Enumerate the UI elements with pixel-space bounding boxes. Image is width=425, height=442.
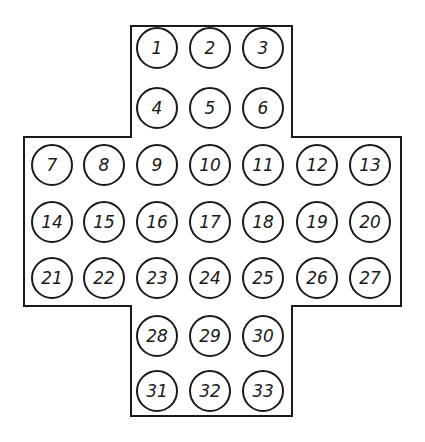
hole-17: 17 (190, 202, 230, 242)
hole-7: 7 (32, 145, 72, 185)
hole-14: 14 (32, 202, 72, 242)
hole-23: 23 (137, 258, 177, 298)
hole-number: 10 (199, 155, 221, 175)
hole-number: 16 (146, 212, 168, 232)
hole-6: 6 (243, 88, 283, 128)
peg-solitaire-board: 1234567891011121314151617181920212223242… (0, 0, 425, 442)
hole-3: 3 (243, 28, 283, 68)
hole-21: 21 (32, 258, 72, 298)
hole-5: 5 (190, 88, 230, 128)
hole-number: 4 (152, 98, 163, 118)
hole-26: 26 (297, 258, 337, 298)
hole-number: 15 (93, 212, 115, 232)
hole-16: 16 (137, 202, 177, 242)
hole-number: 17 (199, 212, 221, 232)
hole-number: 8 (99, 155, 110, 175)
hole-number: 7 (47, 155, 58, 175)
hole-number: 12 (306, 155, 328, 175)
hole-number: 25 (252, 268, 274, 288)
hole-number: 29 (199, 326, 221, 346)
hole-4: 4 (137, 88, 177, 128)
hole-25: 25 (243, 258, 283, 298)
hole-number: 32 (199, 381, 221, 401)
hole-27: 27 (350, 258, 390, 298)
hole-number: 27 (359, 268, 381, 288)
hole-31: 31 (137, 371, 177, 411)
hole-11: 11 (243, 145, 283, 185)
hole-number: 19 (306, 212, 328, 232)
hole-28: 28 (137, 316, 177, 356)
hole-8: 8 (84, 145, 124, 185)
hole-number: 3 (258, 38, 269, 58)
hole-number: 28 (146, 326, 168, 346)
hole-19: 19 (297, 202, 337, 242)
hole-20: 20 (350, 202, 390, 242)
hole-number: 2 (205, 38, 216, 58)
hole-number: 24 (199, 268, 221, 288)
hole-number: 14 (41, 212, 63, 232)
hole-number: 31 (146, 381, 168, 401)
hole-24: 24 (190, 258, 230, 298)
hole-number: 6 (258, 98, 269, 118)
hole-number: 5 (205, 98, 216, 118)
hole-10: 10 (190, 145, 230, 185)
hole-number: 11 (252, 155, 274, 175)
hole-13: 13 (350, 145, 390, 185)
hole-number: 23 (146, 268, 168, 288)
hole-number: 1 (152, 38, 163, 58)
hole-number: 18 (252, 212, 274, 232)
hole-number: 22 (93, 268, 115, 288)
hole-number: 9 (152, 155, 163, 175)
hole-15: 15 (84, 202, 124, 242)
hole-number: 30 (252, 326, 274, 346)
hole-number: 20 (359, 212, 381, 232)
hole-number: 21 (41, 268, 63, 288)
hole-33: 33 (243, 371, 283, 411)
hole-29: 29 (190, 316, 230, 356)
hole-2: 2 (190, 28, 230, 68)
hole-32: 32 (190, 371, 230, 411)
hole-22: 22 (84, 258, 124, 298)
hole-30: 30 (243, 316, 283, 356)
hole-number: 26 (306, 268, 328, 288)
hole-9: 9 (137, 145, 177, 185)
hole-18: 18 (243, 202, 283, 242)
hole-number: 33 (252, 381, 274, 401)
hole-1: 1 (137, 28, 177, 68)
hole-12: 12 (297, 145, 337, 185)
hole-number: 13 (359, 155, 381, 175)
